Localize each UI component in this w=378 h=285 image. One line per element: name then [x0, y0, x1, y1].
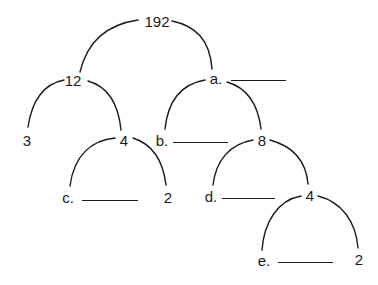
answer-blank-e[interactable]: [278, 262, 333, 263]
branch-a-b: [165, 80, 205, 129]
branch-192-a: [172, 21, 212, 69]
answer-blank-b[interactable]: [173, 142, 228, 143]
branch-a-8: [227, 82, 261, 129]
node-2-right: 2: [355, 252, 363, 267]
node-c-label: c.: [62, 190, 74, 205]
branch-12-3: [28, 80, 64, 127]
node-e-label: e.: [258, 253, 271, 268]
node-d-label: d.: [205, 189, 218, 204]
node-192: 192: [144, 14, 169, 29]
node-a-label: a.: [210, 71, 223, 86]
node-12: 12: [65, 73, 82, 88]
node-b-label: b.: [156, 133, 169, 148]
node-3: 3: [23, 133, 31, 148]
node-4-right: 4: [306, 188, 314, 203]
answer-blank-c[interactable]: [82, 200, 138, 201]
answer-blank-a[interactable]: [231, 80, 286, 81]
branch-192-12: [80, 20, 138, 72]
node-8: 8: [258, 133, 266, 148]
branch-8-d: [213, 140, 253, 185]
node-2-left: 2: [164, 190, 172, 205]
branch-4-e: [262, 196, 301, 250]
answer-blank-d[interactable]: [222, 198, 275, 199]
branch-8-4: [270, 140, 308, 184]
branch-4-c: [70, 138, 115, 186]
branch-12-4: [88, 81, 121, 130]
node-4-left: 4: [120, 133, 128, 148]
branch-4-2-right: [318, 196, 358, 248]
